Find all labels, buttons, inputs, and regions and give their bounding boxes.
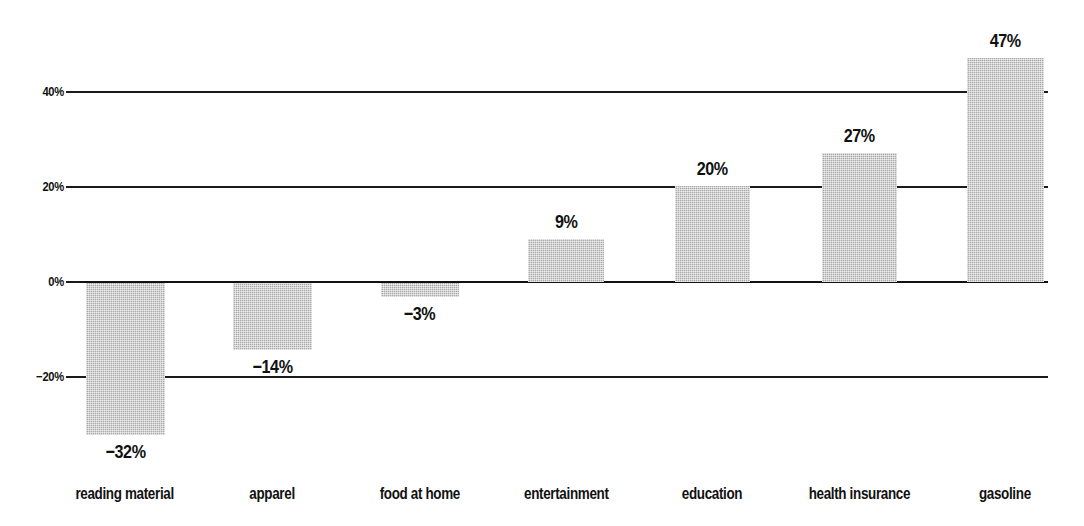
ytick-label-0: 0% <box>4 274 64 289</box>
category-label-education: education <box>632 485 792 503</box>
value-label-gasoline: 47% <box>959 30 1051 52</box>
bar-chart: 40% 20% 0% −20% −32% −14% −3% 9% 2 <box>0 0 1084 526</box>
axis-tick-0 <box>66 281 80 283</box>
bar-entertainment <box>528 239 604 282</box>
bar-education <box>675 186 750 282</box>
axis-tick-neg20 <box>66 376 80 378</box>
category-label-gasoline: gasoline <box>925 485 1084 503</box>
value-label-health-insurance: 27% <box>813 125 905 147</box>
category-label-entertainment: entertainment <box>486 485 646 503</box>
gridline-neg20 <box>80 376 1048 378</box>
category-text-apparel: apparel <box>249 485 294 503</box>
value-text-gasoline: 47% <box>989 30 1020 52</box>
axis-tick-40 <box>66 91 80 93</box>
value-text-entertainment: 9% <box>555 211 577 233</box>
category-text-food-at-home: food at home <box>380 485 460 503</box>
ytick-label-40: 40% <box>4 84 64 99</box>
bar-apparel <box>233 283 312 350</box>
bar-health-insurance <box>822 153 897 282</box>
gridline-40 <box>80 91 1048 93</box>
value-text-reading-material: −32% <box>106 441 146 463</box>
category-text-gasoline: gasoline <box>979 485 1031 503</box>
category-text-education: education <box>682 485 742 503</box>
axis-tick-20 <box>66 186 80 188</box>
value-label-food-at-home: −3% <box>374 303 466 325</box>
category-text-entertainment: entertainment <box>524 485 609 503</box>
value-label-reading-material: −32% <box>80 441 172 463</box>
bar-reading-material <box>86 283 165 435</box>
category-label-food-at-home: food at home <box>340 485 500 503</box>
category-label-reading-material: reading material <box>45 485 205 503</box>
value-text-education: 20% <box>696 158 727 180</box>
value-label-apparel: −14% <box>227 356 319 378</box>
gridline-20 <box>80 186 1048 188</box>
value-label-education: 20% <box>666 158 758 180</box>
bar-food-at-home <box>381 283 459 297</box>
value-text-food-at-home: −3% <box>404 303 436 325</box>
value-text-apparel: −14% <box>253 356 293 378</box>
ytick-label-20: 20% <box>4 179 64 194</box>
plot-area: 40% 20% 0% −20% −32% −14% −3% 9% 2 <box>0 0 1084 526</box>
category-text-reading-material: reading material <box>76 485 174 503</box>
bar-gasoline <box>967 58 1044 282</box>
value-text-health-insurance: 27% <box>843 125 874 147</box>
category-text-health-insurance: health insurance <box>808 485 909 503</box>
category-label-apparel: apparel <box>192 485 352 503</box>
value-label-entertainment: 9% <box>520 211 612 233</box>
ytick-label-neg20: −20% <box>4 369 64 384</box>
category-label-health-insurance: health insurance <box>779 485 939 503</box>
